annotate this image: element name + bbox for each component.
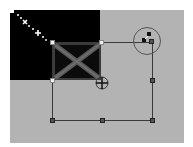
handle-middle-right[interactable] — [150, 78, 155, 83]
handle-bottom-left[interactable] — [50, 118, 55, 123]
move-crosshair-icon — [95, 76, 109, 90]
handle-middle-left[interactable] — [50, 78, 55, 83]
sparkle-icon — [14, 12, 54, 42]
handle-top-middle[interactable] — [99, 40, 104, 45]
handle-bottom-middle[interactable] — [100, 118, 105, 123]
handle-bottom-right[interactable] — [150, 118, 155, 123]
image-thumbnail[interactable] — [53, 43, 101, 80]
handle-top-left[interactable] — [50, 40, 55, 45]
rotate-icon[interactable] — [133, 27, 161, 55]
